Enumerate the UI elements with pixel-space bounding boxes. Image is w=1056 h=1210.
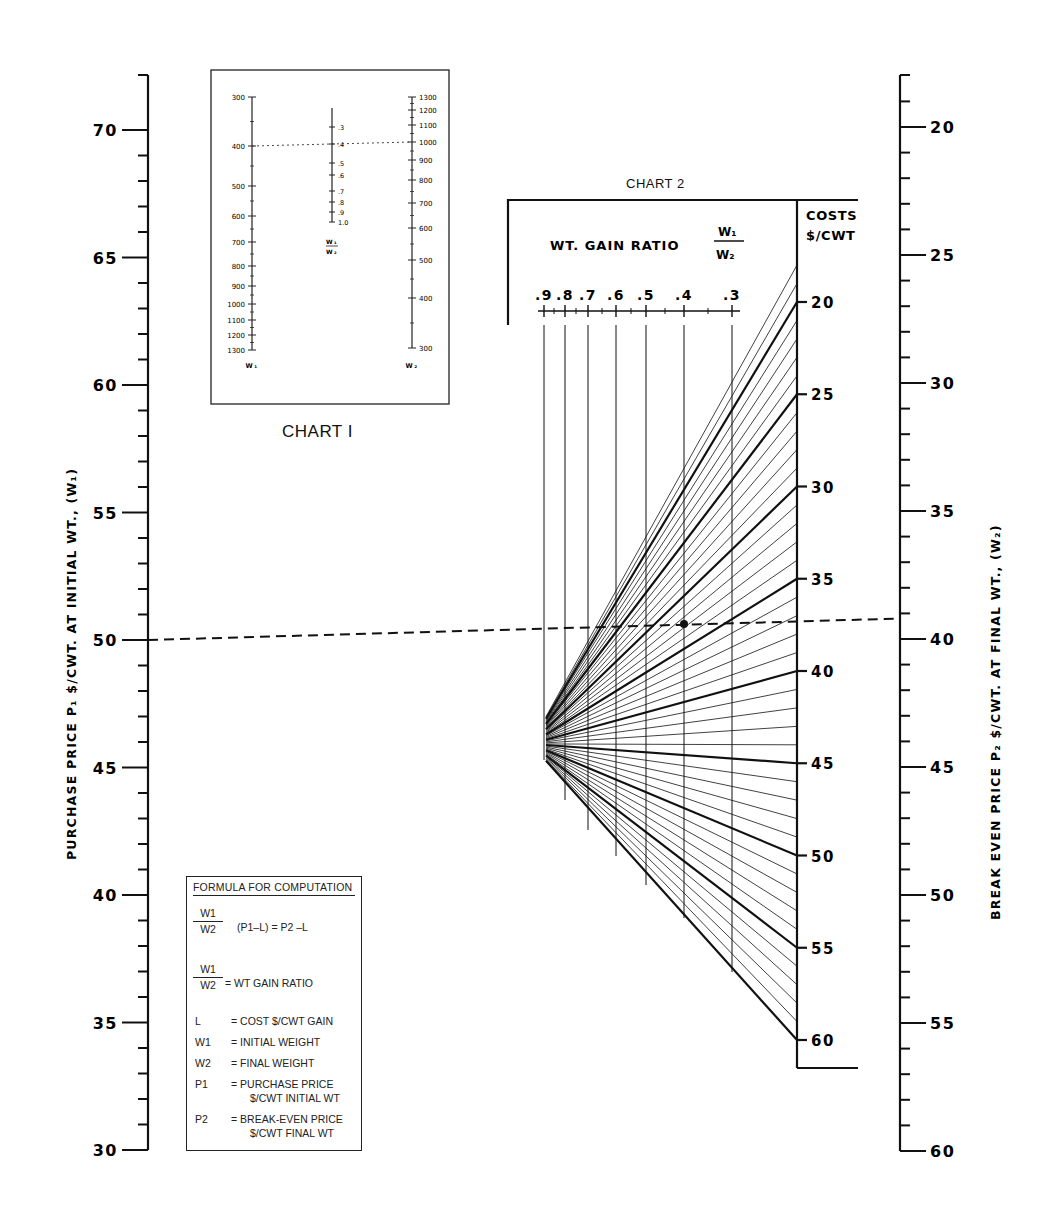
cost-line-minor: [546, 749, 797, 837]
formula-ratio-def: = WT GAIN RATIO: [225, 977, 313, 989]
ratio-tick-label: .7: [338, 188, 344, 196]
w1-tick-label: 800: [232, 263, 245, 271]
chart2-ratio-numerator: W₁: [718, 225, 737, 239]
def-symbol-p1: P1: [195, 1078, 208, 1090]
tick-label: 60: [93, 376, 118, 395]
ratio-tick-label: .3: [723, 287, 741, 303]
cost-line-minor: [546, 468, 797, 728]
def-text-p1-line2: $/CWT INITIAL WT: [250, 1092, 340, 1104]
def-symbol-l: L: [195, 1015, 201, 1027]
cost-line-minor: [546, 753, 797, 910]
w2-tick-label: 900: [419, 157, 432, 165]
cost-line-minor: [546, 339, 797, 721]
def-symbol-p2: P2: [195, 1113, 208, 1125]
cost-tick-label: 35: [811, 571, 835, 589]
w2-tick-label: 1000: [419, 139, 437, 147]
w1-tick-label: 900: [232, 283, 245, 291]
right-axis-p2: 202530354045505560: [900, 75, 955, 1161]
ratio-tick-label: .5: [338, 160, 344, 168]
costs-title-line1: COSTS: [806, 208, 857, 223]
cost-line-major: [546, 394, 797, 724]
formula-eq-den: W2: [200, 923, 216, 936]
w1-tick-label: 700: [232, 239, 245, 247]
cost-tick-label: 25: [811, 386, 835, 404]
cost-line-minor: [546, 357, 797, 722]
w1-tick-label: 400: [232, 143, 245, 151]
ratio-tick-label: .3: [338, 124, 344, 132]
cost-line-minor: [546, 560, 797, 733]
chart1-inset: 3004005006007008009001000110012001300W₁.…: [211, 70, 449, 404]
tick-label: 60: [930, 1142, 955, 1161]
def-symbol-w1: W1: [195, 1036, 211, 1048]
w1-tick-label: 1100: [227, 317, 245, 325]
example-intersection-dot: [680, 620, 688, 628]
cost-line-minor: [546, 708, 797, 742]
cost-line-minor: [546, 757, 797, 967]
cost-line-minor: [546, 754, 797, 929]
nomogram-canvas: 303540455055606570 202530354045505560 30…: [0, 0, 1056, 1210]
cost-tick-label: 30: [811, 479, 835, 497]
w2-tick-label: 500: [419, 257, 432, 265]
cost-line-minor: [546, 744, 797, 745]
ratio-tick-label: .9: [338, 209, 344, 217]
fraction-bar: [193, 921, 223, 922]
w1-tick-label: 1200: [227, 332, 245, 340]
ratio-label-den: W₂: [326, 248, 338, 255]
w1-scale-label: W₁: [245, 362, 258, 370]
tick-label: 35: [930, 502, 955, 521]
tick-label: 25: [930, 246, 955, 265]
tick-label: 70: [93, 121, 118, 140]
ratio-tick-label: .7: [579, 287, 597, 303]
tick-label: 45: [93, 759, 118, 778]
cost-line-major: [546, 756, 797, 948]
ratio-tick-label: .6: [607, 287, 625, 303]
w2-tick-label: 1100: [419, 122, 437, 130]
tick-label: 30: [93, 1141, 118, 1160]
ratio-tick-label: .8: [338, 199, 344, 207]
chart1-frame: [211, 70, 449, 404]
formula-ratio-fraction: W1 W2: [193, 963, 223, 992]
def-text-p2: = BREAK-EVEN PRICE: [231, 1113, 343, 1125]
ratio-tick-label: .4: [675, 287, 693, 303]
w1-tick-label: 600: [232, 213, 245, 221]
ratio-tick-label: 1.0: [338, 219, 348, 227]
cost-tick-label: 20: [811, 294, 835, 312]
left-axis-title: PURCHASE PRICE P₁ $/CWT. AT INITIAL WT.,…: [64, 468, 79, 860]
nomogram-figure: 303540455055606570 202530354045505560 30…: [0, 0, 1056, 1210]
chart1-caption: CHART I: [282, 422, 353, 442]
def-text-p1: = PURCHASE PRICE: [231, 1078, 333, 1090]
ratio-tick-label: .5: [637, 287, 655, 303]
formula-eq-num: W1: [200, 907, 216, 920]
cost-line-minor: [546, 746, 797, 782]
formula-eq-fraction: W1 W2: [193, 907, 223, 936]
cost-line-minor: [546, 653, 797, 739]
cost-line-minor: [546, 760, 797, 1022]
cost-tick-label: 50: [811, 848, 835, 866]
cost-line-major: [546, 487, 797, 730]
chart2-ratio-denominator: W₂: [716, 248, 735, 262]
cost-tick-label: 45: [811, 755, 835, 773]
tick-label: 55: [93, 504, 118, 523]
cost-line-minor: [546, 284, 797, 718]
cost-line-minor: [546, 542, 797, 733]
cost-line-minor: [546, 751, 797, 874]
tick-label: 40: [93, 886, 118, 905]
ratio-tick-label: .4: [338, 141, 344, 149]
formula-title: FORMULA FOR COMPUTATION: [193, 881, 355, 896]
def-text-w2: = FINAL WEIGHT: [231, 1057, 314, 1069]
formula-ratio-num: W1: [200, 963, 216, 976]
w2-tick-label: 1300: [419, 94, 437, 102]
cost-tick-label: 55: [811, 940, 835, 958]
chart2-caption: CHART 2: [626, 176, 685, 191]
chart2-fan: 202530354045505560.9.8.7.6.5.4.3: [508, 200, 858, 1068]
formula-box: FORMULA FOR COMPUTATION W1 W2 (P1–L) = P…: [186, 876, 362, 1151]
w2-tick-label: 1200: [419, 107, 437, 115]
chart2-ratio-title: WT. GAIN RATIO: [550, 238, 680, 253]
right-axis-title: BREAK EVEN PRICE P₂ $/CWT. AT FINAL WT.,…: [988, 524, 1003, 920]
tick-label: 20: [930, 118, 955, 137]
tick-label: 45: [930, 758, 955, 777]
cost-line-minor: [546, 320, 797, 719]
w2-tick-label: 300: [419, 345, 432, 353]
tick-label: 40: [930, 630, 955, 649]
tick-label: 35: [93, 1014, 118, 1033]
